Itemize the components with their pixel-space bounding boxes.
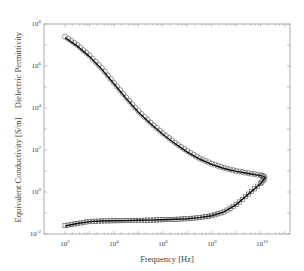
- y-tick-1e8: 108: [32, 19, 42, 28]
- y-tick-1e-2: 10-2: [30, 229, 42, 238]
- y-axis-label-permittivity: Dielectric Permittivity: [13, 31, 23, 108]
- x-tick-1e10: 1010: [256, 239, 269, 248]
- y-tick-labels: 108 106 104 102 100 10-2: [30, 19, 42, 238]
- series-layer: [62, 34, 266, 228]
- x-tick-labels: 102 104 106 108 1010: [60, 239, 268, 248]
- x-tick-1e2: 102: [60, 239, 70, 248]
- x-tick-1e8: 108: [207, 239, 217, 248]
- y-tick-1e6: 106: [32, 61, 42, 70]
- x-axis-label: Frequency [Hz]: [140, 254, 194, 264]
- series-0: [62, 34, 266, 179]
- axis-ticks: [44, 24, 290, 234]
- series-3: [65, 177, 266, 226]
- y-axis-label-conductivity: Equivalent Conductivity [S/m]: [13, 117, 23, 222]
- dielectric-conductivity-chart: 102 104 106 108 1010 108 106 104 102 100…: [0, 0, 304, 271]
- x-tick-1e6: 106: [158, 239, 168, 248]
- y-tick-1e4: 104: [32, 103, 42, 112]
- plot-frame: [44, 24, 290, 234]
- x-tick-1e4: 104: [109, 239, 119, 248]
- fit-line: [65, 177, 266, 226]
- y-tick-1e0: 100: [32, 187, 42, 196]
- y-tick-1e2: 102: [32, 145, 42, 154]
